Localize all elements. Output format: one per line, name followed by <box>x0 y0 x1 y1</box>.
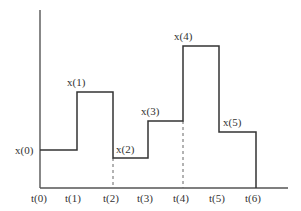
label-x1: x(1) <box>67 76 86 89</box>
tick-t2: t(2) <box>103 192 119 205</box>
tick-t6: t(6) <box>245 192 261 205</box>
tick-t0: t(0) <box>31 192 47 205</box>
label-x0: x(0) <box>15 144 34 157</box>
label-x5: x(5) <box>223 116 242 129</box>
label-x2: x(2) <box>116 143 135 156</box>
tick-t4: t(4) <box>173 192 189 205</box>
tick-t1: t(1) <box>65 192 81 205</box>
label-x4: x(4) <box>174 30 193 43</box>
label-x3: x(3) <box>141 105 160 118</box>
tick-t3: t(3) <box>137 192 153 205</box>
step-function-diagram: x(0) x(1) x(2) x(3) x(4) x(5) t(0) t(1) … <box>0 0 301 211</box>
tick-t5: t(5) <box>209 192 225 205</box>
